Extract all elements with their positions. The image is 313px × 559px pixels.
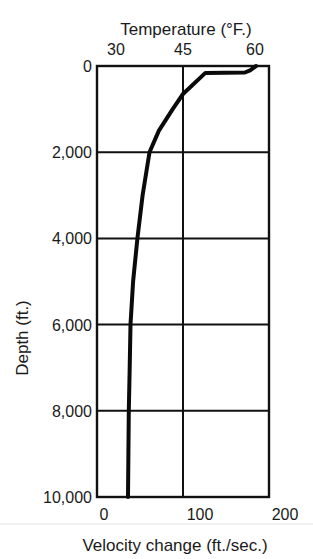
y-tick-label: 4,000 <box>52 230 92 247</box>
y-tick-label: 6,000 <box>52 317 92 334</box>
top-tick-label: 45 <box>174 41 192 58</box>
y-tick-label: 8,000 <box>52 403 92 420</box>
series-line-velocity-change <box>128 66 256 497</box>
x-tick-label: 0 <box>100 506 109 523</box>
x-tick-label: 200 <box>272 506 299 523</box>
y-tick-label: 0 <box>83 58 92 75</box>
y-axis-title: Depth (ft.) <box>13 300 32 376</box>
top-tick-label: 30 <box>107 41 125 58</box>
top-axis-title: Temperature (°F.) <box>120 20 252 39</box>
x-axis-title: Velocity change (ft./sec.) <box>82 536 267 555</box>
x-tick-label: 100 <box>187 506 214 523</box>
chart: Temperature (°F.) 30 45 60 Depth (ft.) V… <box>0 0 313 559</box>
y-tick-label: 10,000 <box>43 489 92 506</box>
y-tick-label: 2,000 <box>52 144 92 161</box>
top-tick-label: 60 <box>246 41 264 58</box>
